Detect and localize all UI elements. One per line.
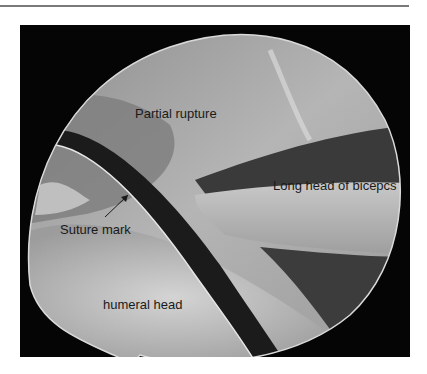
top-rule [0,5,409,7]
label-partial-rupture: Partial rupture [135,106,217,121]
label-humeral-head: humeral head [103,297,183,312]
label-long-head-biceps: Long head of bicepcs [273,178,397,193]
label-suture-mark: Suture mark [60,222,131,237]
arthroscopy-image: Partial rupture Long head of bicepcs Sut… [20,25,410,357]
